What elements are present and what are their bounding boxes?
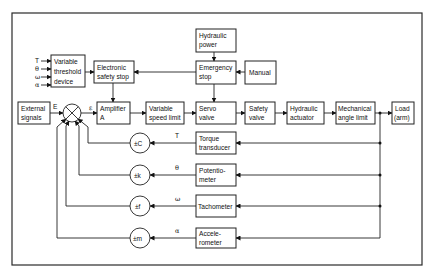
- svg-text:(arm): (arm): [394, 114, 410, 122]
- load-arm-block: Load (arm): [392, 102, 414, 124]
- variable-speed-limit-block: Variable speed limit: [146, 102, 184, 124]
- block-diagram: Hydraulic power Emergency stop Manual Va…: [0, 0, 431, 274]
- svg-text:speed limit: speed limit: [149, 114, 181, 122]
- torque-transducer-block: Torque transducer: [196, 132, 236, 154]
- svg-text:actuator: actuator: [290, 114, 315, 121]
- signal-alpha: α: [175, 227, 180, 235]
- svg-text:Accele-: Accele-: [199, 230, 221, 237]
- safety-valve-block: Safety valve: [245, 102, 275, 124]
- svg-text:Hydraulic: Hydraulic: [290, 105, 318, 113]
- external-signals-block: External signals: [18, 102, 50, 124]
- svg-text:device: device: [54, 78, 73, 85]
- svg-text:power: power: [199, 41, 218, 49]
- svg-text:±m: ±m: [133, 235, 143, 242]
- accelerometer-block: Accele- rometer: [196, 228, 236, 248]
- svg-text:External: External: [21, 105, 46, 112]
- svg-text:stop: stop: [199, 73, 212, 81]
- svg-text:θ: θ: [35, 65, 39, 73]
- svg-text:valve: valve: [249, 114, 265, 121]
- svg-text:±k: ±k: [134, 172, 142, 179]
- svg-text:Potentio-: Potentio-: [199, 167, 225, 174]
- svg-text:Variable: Variable: [149, 105, 173, 112]
- svg-text:A: A: [100, 114, 105, 121]
- svg-text:Variable: Variable: [54, 58, 78, 65]
- signal-omega: ω: [175, 195, 180, 203]
- gain-m: ±m: [130, 228, 150, 248]
- svg-text:Hydraulic: Hydraulic: [199, 32, 227, 40]
- hydraulic-actuator-block: Hydraulic actuator: [287, 102, 324, 124]
- signal-E: E: [53, 103, 58, 110]
- svg-text:Tachometer: Tachometer: [198, 203, 233, 210]
- svg-text:Safety: Safety: [249, 105, 268, 113]
- mechanical-angle-limit-block: Mechanical angle limit: [336, 102, 375, 124]
- hydraulic-power-block: Hydraulic power: [196, 29, 236, 52]
- svg-text:transducer: transducer: [199, 144, 231, 151]
- svg-text:safety stop: safety stop: [97, 73, 129, 81]
- potentiometer-block: Potentio- meter: [196, 164, 236, 186]
- svg-text:α: α: [35, 81, 40, 89]
- svg-text:valve: valve: [199, 114, 215, 121]
- svg-text:Load: Load: [395, 105, 410, 112]
- gain-C: ±C: [130, 133, 150, 153]
- svg-text:Emergency: Emergency: [199, 64, 233, 72]
- servo-valve-block: Servo valve: [196, 102, 236, 124]
- svg-text:±C: ±C: [134, 140, 143, 147]
- svg-text:signals: signals: [21, 114, 42, 122]
- gain-f: ±f: [130, 196, 150, 216]
- svg-text:Manual: Manual: [249, 69, 271, 76]
- svg-text:T: T: [35, 57, 39, 64]
- emergency-stop-block: Emergency stop: [196, 61, 236, 84]
- svg-text:ω: ω: [35, 73, 40, 81]
- threshold-inputs: T θ ω α: [35, 57, 51, 89]
- signal-theta: θ: [175, 164, 179, 172]
- electronic-safety-stop-block: Electronic safety stop: [94, 61, 134, 83]
- svg-text:±f: ±f: [135, 203, 141, 210]
- signal-T: T: [175, 132, 179, 139]
- manual-block: Manual: [245, 61, 276, 84]
- variable-threshold-block: Variable threshold device: [51, 55, 85, 87]
- svg-text:Amplifier: Amplifier: [100, 105, 126, 113]
- svg-text:Torque: Torque: [199, 135, 219, 143]
- tachometer-block: Tachometer: [196, 195, 236, 217]
- svg-text:Electronic: Electronic: [97, 64, 127, 71]
- svg-text:Mechanical: Mechanical: [338, 105, 372, 112]
- svg-text:angle limit: angle limit: [338, 114, 368, 122]
- amplifier-block: Amplifier A: [97, 102, 130, 124]
- svg-text:rometer: rometer: [199, 239, 223, 246]
- svg-text:threshold: threshold: [54, 68, 81, 75]
- gain-k: ±k: [130, 165, 150, 185]
- signal-epsilon: ε: [89, 104, 93, 112]
- svg-text:Servo: Servo: [199, 105, 217, 112]
- svg-text:meter: meter: [199, 176, 217, 183]
